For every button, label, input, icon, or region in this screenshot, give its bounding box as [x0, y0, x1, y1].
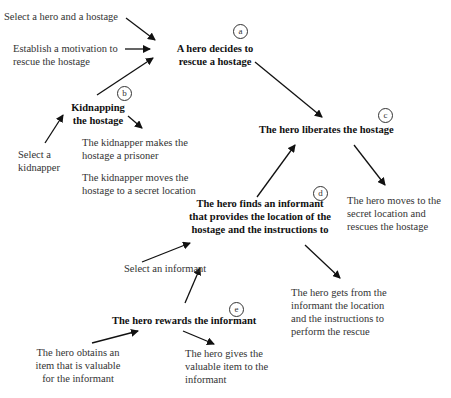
- node-d-text: The hero finds an informant that provide…: [185, 197, 335, 236]
- node-c-badge: c: [378, 108, 393, 123]
- node-a-text: A hero decides to rescue a hostage: [170, 42, 260, 68]
- node-b-text: Kidnapping the hostage: [68, 101, 128, 127]
- arrow-obtain-to-e: [92, 331, 138, 343]
- output-kidnapper-prisoner: The kidnapper makes the hostage a prison…: [82, 136, 188, 162]
- output-hero-gives: The hero gives the valuable item to the …: [185, 347, 268, 386]
- arrow-d-to-c: [257, 145, 295, 197]
- input-establish-motivation: Establish a motivation to rescue the hos…: [13, 42, 118, 68]
- arrow-informant-to-d: [142, 243, 190, 262]
- arrow-d-to-gets: [305, 245, 340, 278]
- input-select-hero-hostage: Select a hero and a hostage: [4, 10, 118, 23]
- arrow-e-to-gives: [183, 331, 214, 344]
- arrow-c-to-moves: [354, 145, 385, 185]
- output-hero-moves: The hero moves to the secret location an…: [347, 194, 441, 233]
- node-b-badge: b: [117, 86, 132, 101]
- output-kidnapper-moves: The kidnapper moves the hostage to a sec…: [82, 171, 196, 197]
- input-obtain-item: The hero obtains an item that is valuabl…: [28, 346, 128, 385]
- arrow-kidnapper-to-b: [45, 115, 63, 143]
- input-select-informant: Select an informant: [124, 262, 206, 275]
- output-hero-gets: The hero gets from the informant the loc…: [291, 286, 387, 338]
- arrow-b-to-prisoner: [128, 116, 142, 128]
- input-select-kidnapper: Select a kidnapper: [18, 148, 60, 174]
- node-e-text: The hero rewards the informant: [112, 314, 256, 327]
- node-a-badge: a: [233, 24, 248, 39]
- node-c-text: The hero liberates the hostage: [259, 123, 394, 136]
- arrow-a-to-c: [255, 62, 322, 117]
- arrow-select-hero-to-a: [126, 18, 155, 40]
